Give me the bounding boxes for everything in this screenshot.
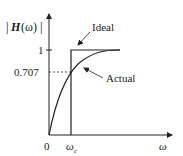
origin-label: 0 xyxy=(44,140,50,152)
ideal-label: Ideal xyxy=(92,21,114,33)
omega-c-label: ω xyxy=(66,140,74,152)
omega-c-subscript: c xyxy=(74,147,78,155)
ideal-pointer xyxy=(78,32,90,45)
filter-response-diagram: | H (ω) | 1 0.707 Ideal Actual 0 ω c ω xyxy=(0,0,183,156)
y-axis-label-arg: (ω) xyxy=(21,20,37,34)
y-axis-label-bar-left: | xyxy=(6,19,9,34)
actual-curve xyxy=(49,50,120,135)
y-tick-label-0707: 0.707 xyxy=(14,66,39,78)
actual-label: Actual xyxy=(106,72,135,84)
x-axis-label: ω xyxy=(159,140,167,152)
y-axis-label-H: H xyxy=(10,20,21,34)
actual-pointer xyxy=(84,68,103,78)
ideal-curve xyxy=(71,50,120,135)
y-axis-label-bar-right: | xyxy=(40,19,43,34)
y-tick-label-1: 1 xyxy=(38,44,44,56)
